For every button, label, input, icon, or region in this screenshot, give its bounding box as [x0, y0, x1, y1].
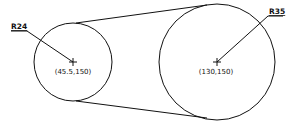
- right-radius-leader: [217, 16, 268, 62]
- top-tangent-line: [76, 5, 207, 23]
- left-radius-label: R24: [11, 22, 27, 31]
- bottom-tangent-line: [76, 101, 207, 118]
- left-center-label: (45.5,150): [55, 68, 92, 76]
- right-center-label: (130,150): [199, 68, 234, 76]
- right-radius-label: R35: [269, 7, 285, 16]
- cad-drawing: R24 (45.5,150) R35 (130,150): [0, 0, 293, 128]
